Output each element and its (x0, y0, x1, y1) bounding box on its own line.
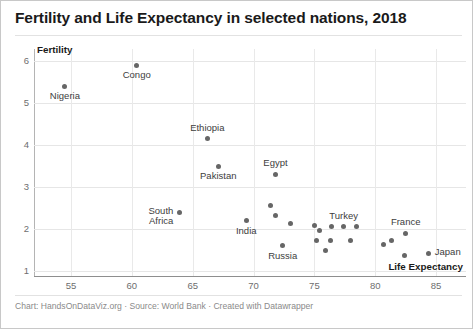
data-point[interactable] (402, 253, 407, 258)
data-point[interactable] (273, 213, 278, 218)
title-divider (15, 35, 462, 36)
data-point-label: Nigeria (50, 91, 80, 102)
gridline-horizontal (34, 145, 466, 146)
x-axis-line (34, 276, 466, 277)
gridline-vertical (193, 49, 194, 276)
chart-card: Fertility and Life Expectancy in selecte… (0, 0, 473, 329)
data-point-france[interactable] (403, 231, 408, 236)
data-point-label: Japan (435, 247, 461, 258)
gridline-vertical (71, 49, 72, 276)
x-axis-tick-label: 60 (112, 280, 152, 291)
x-axis-tick-label: 85 (416, 280, 456, 291)
data-point[interactable] (317, 228, 322, 233)
x-axis-tick-label: 70 (234, 280, 274, 291)
data-point-label: Turkey (329, 211, 358, 222)
data-point[interactable] (348, 238, 353, 243)
data-point-label: Egypt (263, 158, 287, 169)
data-point-label: Pakistan (200, 171, 236, 182)
y-axis-ticks: 123456 (1, 1, 29, 329)
data-point[interactable] (314, 238, 319, 243)
gridline-vertical (254, 49, 255, 276)
x-axis-tick-label: 65 (173, 280, 213, 291)
data-point-nigeria[interactable] (62, 84, 67, 89)
x-axis-tick-label: 75 (294, 280, 334, 291)
data-point-south-africa[interactable] (177, 210, 182, 215)
data-point-congo[interactable] (134, 63, 139, 68)
data-point-egypt[interactable] (273, 172, 278, 177)
data-point-label: Russia (268, 251, 297, 262)
x-axis-tick-label: 55 (51, 280, 91, 291)
data-point[interactable] (381, 242, 386, 247)
footer-divider (15, 295, 462, 296)
data-point[interactable] (328, 238, 333, 243)
gridline-horizontal (34, 187, 466, 188)
y-axis-tick-label: 1 (3, 266, 29, 276)
gridline-vertical (436, 49, 437, 276)
x-axis-tick-label: 80 (355, 280, 395, 291)
x-axis-title: Life Expectancy (371, 261, 463, 272)
data-point[interactable] (268, 203, 273, 208)
data-point[interactable] (288, 221, 293, 226)
data-point[interactable] (389, 238, 394, 243)
y-axis-tick-label: 2 (3, 224, 29, 234)
gridline-horizontal (34, 103, 466, 104)
data-point-label: Ethiopia (190, 123, 224, 134)
data-point-india[interactable] (244, 218, 249, 223)
chart-footer: Chart: HandsOnDataViz.org · Source: Worl… (15, 301, 465, 312)
chart-title: Fertility and Life Expectancy in selecte… (15, 9, 455, 27)
data-point[interactable] (312, 223, 317, 228)
gridline-vertical (375, 49, 376, 276)
data-point-label: France (391, 217, 421, 228)
data-point-pakistan[interactable] (216, 164, 221, 169)
data-point-ethiopia[interactable] (205, 136, 210, 141)
data-point[interactable] (323, 248, 328, 253)
gridline-vertical (132, 49, 133, 276)
data-point-japan[interactable] (426, 251, 431, 256)
y-axis-title: Fertility (37, 44, 72, 55)
data-point-label: Congo (123, 70, 151, 81)
y-axis-tick-label: 5 (3, 98, 29, 108)
y-axis-tick-label: 3 (3, 182, 29, 192)
y-axis-tick-label: 6 (3, 56, 29, 66)
plot-area: NigeriaCongoEthiopiaPakistanEgyptSouth A… (34, 49, 466, 276)
gridline-horizontal (34, 61, 466, 62)
data-point-russia[interactable] (280, 243, 285, 248)
data-point-label: South Africa (135, 206, 173, 226)
data-point-label: India (236, 226, 257, 237)
y-axis-tick-label: 4 (3, 140, 29, 150)
